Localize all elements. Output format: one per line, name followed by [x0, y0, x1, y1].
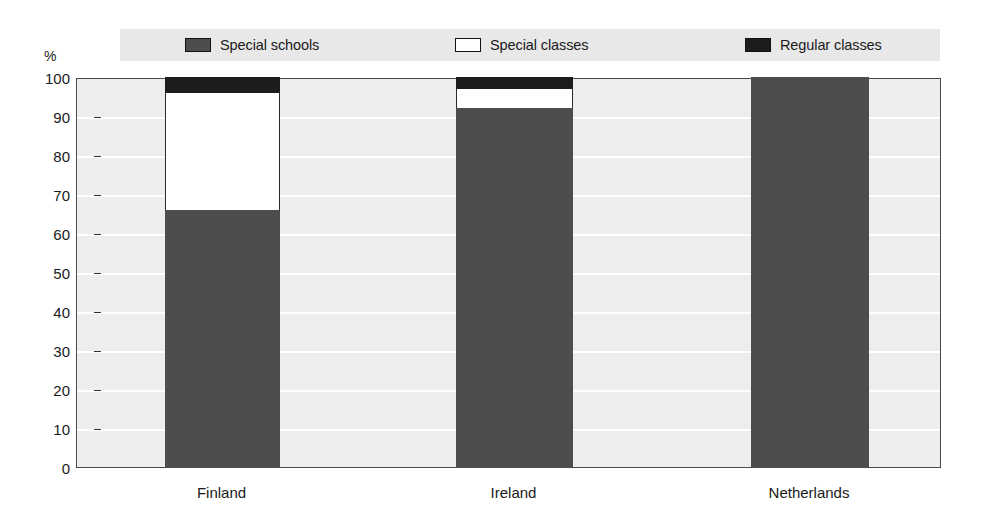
y-axis-tick-label: 50 — [34, 266, 70, 281]
legend-swatch-regular-classes-icon — [745, 38, 771, 52]
bar-ireland — [456, 77, 573, 467]
bars-layer — [77, 79, 940, 467]
legend-label-regular-classes: Regular classes — [780, 37, 882, 53]
legend-swatch-special-schools-icon — [185, 38, 211, 52]
y-axis-tick-label: 100 — [34, 71, 70, 86]
bar-segment-special-schools — [751, 77, 869, 467]
x-axis-category-label: Netherlands — [719, 484, 899, 501]
y-axis-tick-label: 30 — [34, 344, 70, 359]
legend-label-special-classes: Special classes — [490, 37, 588, 53]
y-axis-tick-mark — [94, 390, 101, 392]
y-axis-tick-label: 40 — [34, 305, 70, 320]
y-axis-tick-mark — [94, 312, 101, 314]
y-axis-tick-mark — [94, 429, 101, 431]
y-axis-tick-label: 90 — [34, 110, 70, 125]
bar-segment-special-schools — [165, 210, 280, 467]
legend-swatch-special-classes-icon — [455, 38, 481, 52]
legend-item-special-classes: Special classes — [455, 37, 588, 53]
legend-item-special-schools: Special schools — [185, 37, 319, 53]
y-axis: 0102030405060708090100 — [24, 0, 70, 523]
y-axis-tick-mark — [94, 273, 101, 275]
y-axis-tick-mark — [94, 234, 101, 236]
y-axis-tick-label: 10 — [34, 422, 70, 437]
bar-segment-special-classes — [165, 93, 280, 210]
y-axis-tick-label: 70 — [34, 188, 70, 203]
bar-finland — [165, 77, 280, 467]
bar-segment-regular-classes — [456, 77, 573, 89]
y-axis-tick-label: 80 — [34, 149, 70, 164]
bar-segment-special-schools — [456, 108, 573, 467]
plot-area — [76, 78, 941, 468]
chart-legend: Special schools Special classes Regular … — [120, 29, 940, 61]
x-axis-category-label: Finland — [132, 484, 312, 501]
legend-item-regular-classes: Regular classes — [745, 37, 882, 53]
y-axis-tick-label: 60 — [34, 227, 70, 242]
legend-label-special-schools: Special schools — [220, 37, 319, 53]
bar-segment-regular-classes — [165, 77, 280, 93]
y-axis-tick-label: 20 — [34, 383, 70, 398]
y-axis-tick-label: 0 — [34, 461, 70, 476]
y-axis-tick-mark — [94, 195, 101, 197]
bar-segment-special-classes — [456, 89, 573, 109]
y-axis-tick-mark — [94, 156, 101, 158]
bar-netherlands — [751, 77, 869, 467]
y-axis-tick-mark — [94, 117, 101, 119]
y-axis-tick-mark — [94, 351, 101, 353]
x-axis-category-label: Ireland — [424, 484, 604, 501]
